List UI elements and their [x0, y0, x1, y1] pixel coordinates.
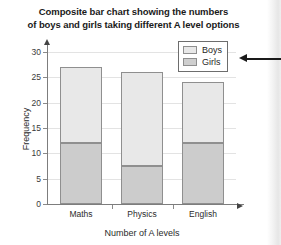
y-tick-10 [43, 153, 47, 154]
y-tick-label-30: 30 [32, 47, 41, 57]
legend-label-girls: Girls [202, 57, 221, 67]
bar-physics-segment-boys[interactable] [121, 166, 163, 204]
bar-english-segment-boys[interactable] [182, 143, 224, 204]
bar-maths-segment-boys[interactable] [60, 143, 102, 204]
y-axis-line [47, 44, 48, 205]
x-axis-arrow-icon [237, 203, 243, 209]
annotation-arrow-icon [239, 54, 281, 63]
legend-entry-boys[interactable]: Boys [183, 44, 222, 56]
y-tick-20 [43, 103, 47, 104]
chart-title-line-2: of boys and girls taking different A lev… [0, 19, 267, 32]
boys-swatch-icon [183, 46, 197, 54]
x-axis-line [47, 204, 244, 205]
bar-maths[interactable] [60, 67, 102, 204]
legend-entry-girls[interactable]: Girls [183, 56, 222, 68]
legend-label-boys: Boys [202, 45, 222, 55]
y-tick-30 [43, 52, 47, 53]
x-category-label-maths: Maths [51, 209, 111, 219]
x-category-label-physics: Physics [112, 209, 172, 219]
plot-area: Frequency 30 25 20 15 10 5 0 [47, 52, 237, 205]
annotation-arrow-shaft [246, 58, 281, 60]
bar-maths-segment-girls[interactable] [60, 67, 102, 143]
y-tick-15 [43, 128, 47, 129]
bar-english-segment-girls[interactable] [182, 82, 224, 143]
y-tick-0 [43, 204, 47, 205]
page-edge-shading [267, 0, 281, 245]
y-tick-25 [43, 77, 47, 78]
y-tick-label-10: 10 [32, 148, 41, 158]
x-category-label-english: English [173, 209, 233, 219]
bar-physics-segment-girls[interactable] [121, 72, 163, 166]
bar-physics[interactable] [121, 72, 163, 204]
y-tick-label-20: 20 [32, 98, 41, 108]
y-tick-label-25: 25 [32, 72, 41, 82]
y-tick-label-15: 15 [32, 123, 41, 133]
y-axis-label: Frequency [21, 107, 31, 150]
girls-swatch-icon [183, 58, 197, 66]
y-tick-label-0: 0 [36, 199, 41, 209]
bar-english[interactable] [182, 82, 224, 204]
chart-title: Composite bar chart showing the numbers … [0, 6, 267, 31]
chart-title-line-1: Composite bar chart showing the numbers [0, 6, 267, 19]
y-tick-5 [43, 179, 47, 180]
x-axis-label: Number of A levels [47, 228, 237, 238]
chart-legend[interactable]: Boys Girls [178, 41, 228, 72]
chart-page: Composite bar chart showing the numbers … [0, 0, 281, 245]
y-axis-arrow-icon [44, 39, 50, 45]
y-tick-label-5: 5 [36, 174, 41, 184]
